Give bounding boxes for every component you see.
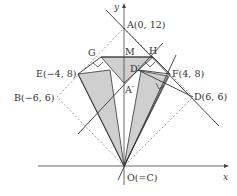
label-D-prime: D′ bbox=[130, 63, 140, 74]
y-axis-arrow bbox=[122, 3, 126, 8]
geometry-diagram: y x A(0, 12) B(−6, 6) D(6, 6) E(−4, 8) F… bbox=[0, 0, 237, 196]
y-axis-label: y bbox=[113, 2, 120, 12]
label-A-prime: A′ bbox=[124, 84, 134, 95]
label-H: H bbox=[149, 45, 157, 56]
label-D: D(6, 6) bbox=[194, 91, 227, 102]
label-O: O(=C) bbox=[127, 172, 157, 183]
label-G: G bbox=[88, 47, 96, 58]
x-axis-label: x bbox=[223, 172, 228, 182]
label-A: A(0, 12) bbox=[126, 19, 165, 30]
label-B: B(−6, 6) bbox=[14, 92, 54, 103]
label-E: E(−4, 8) bbox=[36, 68, 76, 79]
x-axis-arrow bbox=[224, 164, 229, 168]
label-M: M bbox=[125, 46, 135, 57]
right-angle-G bbox=[93, 62, 103, 67]
shaded-regions bbox=[78, 57, 168, 166]
label-F: F(4, 8) bbox=[172, 68, 204, 79]
